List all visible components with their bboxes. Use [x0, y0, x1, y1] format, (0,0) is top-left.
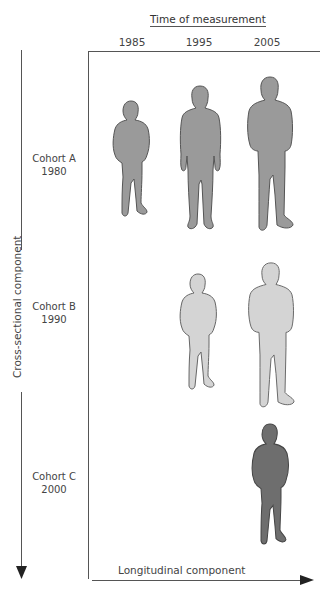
- year-1985-label: 1985: [107, 36, 157, 48]
- year-2005-label: 2005: [242, 36, 292, 48]
- cohort-c-label: Cohort C 2000: [22, 470, 86, 496]
- cohort-a-year: 1980: [22, 165, 86, 178]
- cohort-b-2005-figure: [246, 261, 296, 416]
- cohort-c-year: 2000: [22, 483, 86, 496]
- cross-sectional-axis-line-top: [21, 50, 22, 250]
- cohort-a-1985-figure: [111, 99, 151, 219]
- cohort-a-label: Cohort A 1980: [22, 152, 86, 178]
- cohort-b-label: Cohort B 1990: [22, 300, 86, 326]
- right-arrow-icon: [300, 575, 314, 585]
- cohort-a-2005-figure: [245, 75, 295, 240]
- left-frame-line: [88, 51, 89, 579]
- cohort-b-name: Cohort B: [22, 300, 86, 313]
- cohort-b-1995-figure: [178, 272, 218, 392]
- top-frame-line: [88, 51, 320, 52]
- cohort-a-1995-figure: [178, 84, 222, 234]
- time-of-measurement-title: Time of measurement: [150, 13, 266, 27]
- cohort-a-name: Cohort A: [22, 152, 86, 165]
- cohort-c-name: Cohort C: [22, 470, 86, 483]
- cohort-b-year: 1990: [22, 313, 86, 326]
- longitudinal-axis-line: [92, 580, 302, 581]
- cohort-c-2005-figure: [250, 422, 290, 547]
- longitudinal-component-label: Longitudinal component: [118, 564, 245, 576]
- down-arrow-icon: [16, 566, 27, 579]
- year-1995-label: 1995: [174, 36, 224, 48]
